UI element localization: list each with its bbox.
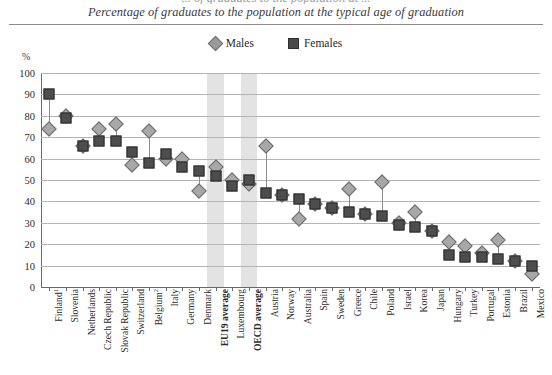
x-axis-label: Japan (436, 289, 446, 311)
x-axis-label: Slovenia (70, 289, 80, 323)
x-axis-label: EU19 average (220, 289, 230, 346)
x-axis-label: Greece (353, 289, 363, 316)
legend-item-males: Males (210, 37, 254, 49)
data-point-male (191, 183, 207, 199)
x-axis-label: Denmark (203, 289, 213, 325)
y-axis-tick-label: 100 (19, 68, 35, 79)
data-point-female (393, 219, 404, 230)
y-axis-tick-label: 30 (25, 217, 36, 228)
x-axis-label: Norway (286, 289, 296, 320)
x-axis-label: Netherlands (87, 289, 97, 335)
data-point-female (443, 249, 454, 260)
data-point-female (327, 202, 338, 213)
y-axis-tick-label: 0 (30, 282, 35, 293)
x-axis-label: Australia (303, 289, 313, 324)
gridline: 40 (41, 201, 540, 202)
x-axis-label: Portugal (486, 289, 496, 322)
data-point-male (441, 234, 457, 250)
gridline: 10 (41, 266, 540, 267)
data-point-female (44, 89, 55, 100)
x-axis-label: Slovak Republic (120, 289, 130, 353)
data-point-female (476, 252, 487, 263)
y-axis-tick-label: 40 (25, 196, 36, 207)
data-point-female (243, 175, 254, 186)
square-marker-icon (288, 38, 299, 49)
x-axis-labels: Finland1SloveniaNetherlandsCzech Republi… (41, 289, 540, 375)
gridline: 90 (41, 94, 540, 95)
x-axis-label: Luxembourg (236, 289, 246, 338)
gridline: 50 (41, 180, 540, 181)
data-point-female (227, 181, 238, 192)
x-axis-label: Sweden (336, 289, 346, 319)
chart-subtitle: Percentage of graduates to the populatio… (0, 5, 552, 20)
y-axis-tick-label: 60 (25, 153, 36, 164)
clipped-header-line: ... of graduates to the population at ..… (0, 0, 552, 4)
plot-area: 0102030405060708090100 (41, 73, 540, 287)
chart-legend: Males Females (0, 37, 552, 49)
data-point-male (341, 181, 357, 197)
y-axis-tick-label: 70 (25, 132, 36, 143)
data-point-female (194, 166, 205, 177)
gridline: 30 (41, 223, 540, 224)
x-axis-label: Germany (186, 289, 196, 325)
x-axis-label: Austria (270, 289, 280, 317)
data-point-female (510, 256, 521, 267)
data-point-female (110, 136, 121, 147)
legend-item-females: Females (288, 37, 342, 49)
data-point-male (291, 211, 307, 227)
gridline: 60 (41, 159, 540, 160)
x-axis-label: Poland (386, 289, 396, 316)
gridline: 100 (41, 73, 540, 74)
x-axis-label: Finland1 (53, 289, 64, 322)
x-axis-label: Mexico (536, 289, 546, 318)
x-axis-label: Spain (319, 289, 329, 311)
data-point-female (460, 252, 471, 263)
data-point-female (360, 209, 371, 220)
y-axis-tick-label: 80 (25, 110, 36, 121)
data-point-female (127, 147, 138, 158)
x-axis-label: Belgium2 (153, 289, 164, 325)
data-point-female (144, 157, 155, 168)
x-axis-label: Hungary (453, 289, 463, 323)
x-axis-label: Estonia (502, 289, 512, 318)
legend-label-males: Males (226, 37, 254, 49)
legend-label-females: Females (304, 37, 342, 49)
x-axis-label: Israel (403, 289, 413, 310)
data-point-female (410, 222, 421, 233)
x-axis-label: OECD average (253, 289, 263, 351)
data-point-female (177, 162, 188, 173)
data-point-female (293, 194, 304, 205)
x-axis-label: Korea (419, 289, 429, 312)
y-axis-unit-label: % (22, 51, 30, 62)
data-point-male (491, 232, 507, 248)
y-axis-tick-label: 50 (25, 175, 36, 186)
data-point-female (260, 187, 271, 198)
x-axis-label: Italy (170, 289, 180, 307)
x-axis-label: Czech Republic (103, 289, 113, 350)
data-point-female (376, 211, 387, 222)
data-point-female (526, 260, 537, 271)
data-point-male (108, 117, 124, 133)
data-point-male (407, 204, 423, 220)
x-axis-label: Turkey (469, 289, 479, 316)
data-point-female (94, 136, 105, 147)
data-point-male (374, 174, 390, 190)
x-axis-label: Switzerland (136, 289, 146, 335)
data-point-female (160, 149, 171, 160)
chart-root: ... of graduates to the population at ..… (0, 0, 552, 375)
y-axis-tick-label: 90 (25, 89, 36, 100)
data-point-female (426, 226, 437, 237)
data-point-female (77, 140, 88, 151)
data-point-female (493, 254, 504, 265)
y-axis-tick-label: 10 (25, 260, 36, 271)
data-point-female (210, 170, 221, 181)
diamond-marker-icon (208, 35, 224, 51)
clipped-header-text: ... of graduates to the population at ..… (0, 0, 552, 4)
header-divider (9, 24, 543, 25)
x-axis-label: Brazil (519, 289, 529, 312)
data-point-male (42, 121, 58, 137)
y-axis-tick-label: 20 (25, 239, 36, 250)
x-axis-label: Chile (369, 289, 379, 310)
data-point-male (258, 138, 274, 154)
data-point-female (343, 207, 354, 218)
